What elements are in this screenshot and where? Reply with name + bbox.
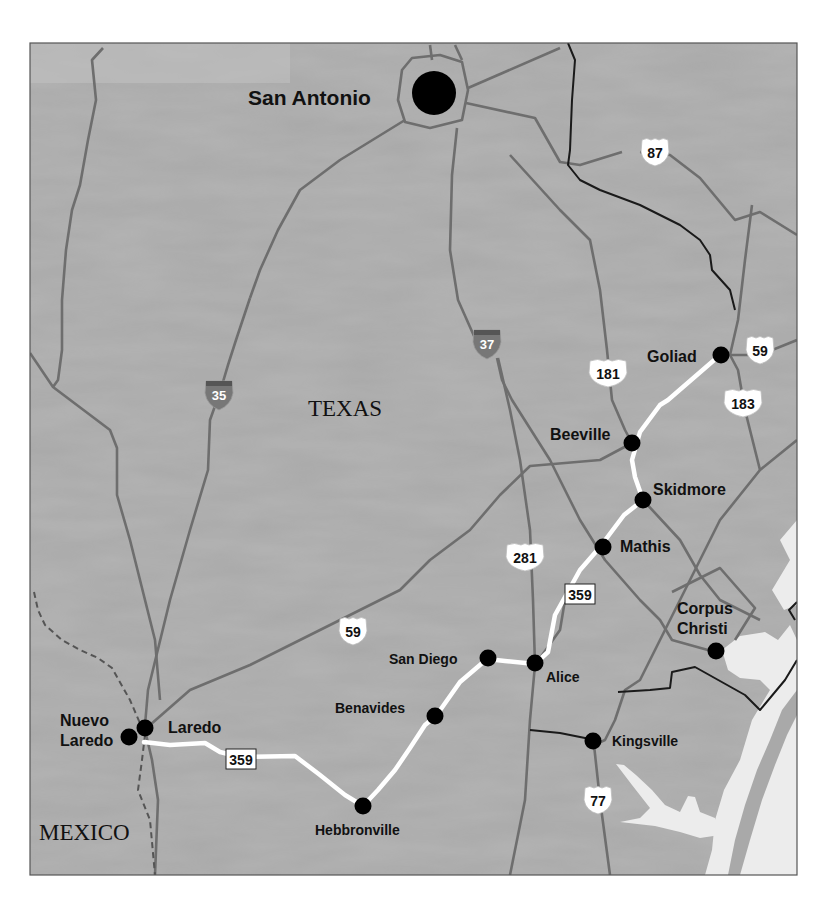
mexico-label: MEXICO [39, 820, 130, 845]
svg-text:Laredo: Laredo [60, 732, 114, 749]
svg-text:37: 37 [480, 337, 494, 352]
svg-text:281: 281 [513, 550, 537, 566]
svg-text:59: 59 [345, 624, 361, 640]
city-goliad[interactable]: Goliad [647, 347, 730, 366]
svg-text:359: 359 [568, 587, 592, 603]
svg-text:Laredo: Laredo [168, 719, 222, 736]
hill-shade [30, 43, 290, 83]
svg-text:Goliad: Goliad [647, 348, 697, 365]
svg-text:Beeville: Beeville [550, 426, 611, 443]
terrain-texture [30, 43, 797, 875]
svg-text:Benavides: Benavides [335, 700, 405, 716]
svg-text:Kingsville: Kingsville [612, 733, 678, 749]
svg-text:Skidmore: Skidmore [653, 481, 726, 498]
svg-text:183: 183 [731, 396, 755, 412]
city-laredo[interactable]: Laredo [137, 719, 222, 737]
svg-text:35: 35 [212, 388, 226, 403]
svg-text:Nuevo: Nuevo [60, 712, 109, 729]
svg-text:Corpus: Corpus [677, 600, 733, 617]
city-mathis[interactable]: Mathis [595, 538, 671, 556]
svg-text:77: 77 [590, 793, 606, 809]
svg-text:Hebbronville: Hebbronville [315, 822, 400, 838]
svg-text:87: 87 [647, 145, 663, 161]
san-antonio-dot[interactable] [412, 71, 456, 115]
san-antonio-label: San Antonio [248, 86, 371, 109]
svg-text:San Diego: San Diego [389, 651, 457, 667]
svg-text:Alice: Alice [546, 669, 580, 685]
state-359-shield-east: 359 [565, 584, 595, 604]
svg-text:Christi: Christi [677, 620, 728, 637]
map-canvas: San Antonio TEXAS MEXICO Goliad Beeville… [0, 0, 822, 899]
state-359-shield-west: 359 [226, 749, 256, 769]
svg-text:Mathis: Mathis [620, 538, 671, 555]
svg-text:181: 181 [596, 366, 620, 382]
svg-text:59: 59 [752, 343, 768, 359]
texas-label: TEXAS [308, 396, 382, 421]
city-kingsville[interactable]: Kingsville [585, 733, 679, 750]
svg-text:359: 359 [229, 752, 253, 768]
